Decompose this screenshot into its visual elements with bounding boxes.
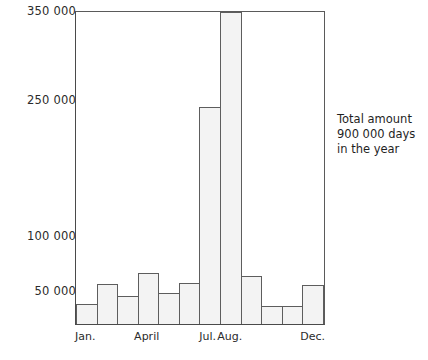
bar-jan bbox=[76, 304, 98, 324]
x-axis-tick-label-11 bbox=[281, 330, 300, 348]
x-axis-tick-label-2 bbox=[95, 330, 114, 348]
x-axis-labels: Jan. April Jul. Aug. Dec. bbox=[75, 330, 325, 348]
bar-april bbox=[138, 273, 160, 324]
bar-dec bbox=[302, 285, 324, 324]
bar-jul bbox=[199, 107, 221, 324]
bar-mar bbox=[117, 296, 139, 324]
bar-may bbox=[158, 293, 180, 324]
y-axis-tick-label-100000: 100 000 bbox=[27, 230, 76, 242]
x-axis-tick-label-10 bbox=[262, 330, 281, 348]
x-axis-tick-label-4: April bbox=[134, 330, 159, 348]
x-axis-tick-label-1: Jan. bbox=[75, 330, 95, 348]
annotation-line-2: 900 000 days bbox=[337, 127, 425, 142]
plot-area bbox=[75, 11, 325, 325]
annotation-line-1: Total amount bbox=[337, 112, 425, 127]
bar-aug bbox=[220, 12, 242, 324]
bar-chart-figure: 350 000 250 000 100 000 50 000 Jan. Apri… bbox=[0, 0, 428, 360]
bar-nov bbox=[282, 306, 304, 324]
bar-oct bbox=[261, 306, 283, 324]
bar-feb bbox=[97, 284, 119, 324]
x-axis-tick-label-8: Aug. bbox=[217, 330, 242, 348]
x-axis-tick-label-12: Dec. bbox=[300, 330, 325, 348]
bar-series bbox=[76, 12, 324, 324]
x-axis-tick-label-9 bbox=[242, 330, 261, 348]
y-axis-tick-label-350000: 350 000 bbox=[27, 5, 76, 17]
y-axis-tick-label-250000: 250 000 bbox=[27, 94, 76, 106]
bar-sep bbox=[241, 276, 263, 324]
y-axis-tick-label-50000: 50 000 bbox=[35, 285, 76, 297]
x-axis-tick-label-7: Jul. bbox=[198, 330, 217, 348]
chart-annotation: Total amount 900 000 days in the year bbox=[337, 112, 425, 157]
x-axis-tick-label-5 bbox=[159, 330, 178, 348]
bar-jun bbox=[179, 283, 201, 324]
x-axis-tick-label-3 bbox=[115, 330, 134, 348]
annotation-line-3: in the year bbox=[337, 142, 425, 157]
x-axis-tick-label-6 bbox=[179, 330, 198, 348]
